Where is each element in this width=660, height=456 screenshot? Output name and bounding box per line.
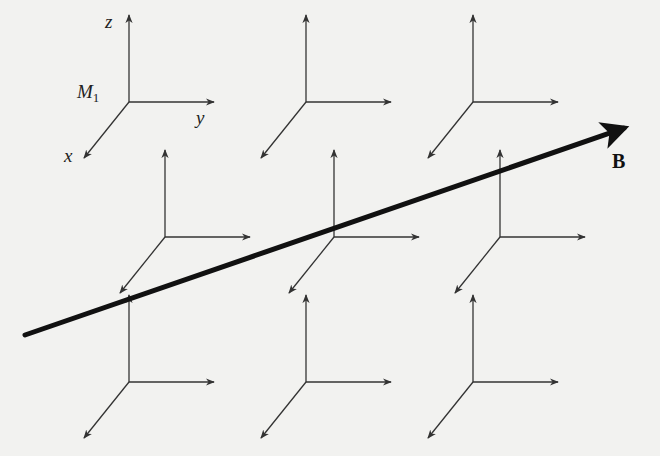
coordinate-frame [428,295,558,438]
x-axis-label: x [63,145,73,166]
x-axis-arrow [428,102,473,158]
coordinate-frame [120,150,250,293]
frame-label-M1: M1 [76,81,99,105]
z-axis-label: z [104,11,113,32]
coordinate-frame [455,150,585,293]
coordinate-frame [261,15,391,158]
x-axis-arrow [289,237,334,293]
magnetic-field-frames-diagram: B z y x M1 [0,0,660,456]
frame-label-M: M [76,81,94,102]
x-axis-arrow [84,102,129,158]
field-label-B: B [612,150,625,172]
x-axis-arrow [428,382,473,438]
frame-label-subscript: 1 [93,90,100,105]
x-axis-arrow [261,102,306,158]
magnetic-field-arrow [25,128,624,335]
coordinate-frame [428,15,558,158]
coordinate-frame [84,15,214,158]
coordinate-frame [261,295,391,438]
x-axis-arrow [120,237,165,293]
x-axis-arrow [261,382,306,438]
coordinate-frame [84,295,214,438]
x-axis-arrow [455,237,500,293]
x-axis-arrow [84,382,129,438]
y-axis-label: y [194,107,205,128]
